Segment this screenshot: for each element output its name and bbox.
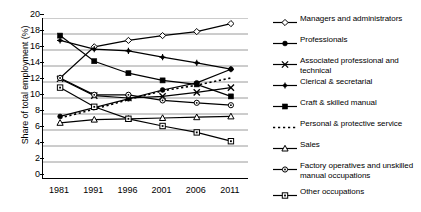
x-tick-label: 2001 xyxy=(152,186,172,195)
marker-filled-star xyxy=(228,66,234,72)
y-tick-label: 18 xyxy=(30,26,40,35)
legend-marker-none-icon xyxy=(272,119,298,130)
legend-label: Clerical & secretarial xyxy=(298,77,372,87)
marker-open-square xyxy=(160,123,165,128)
x-axis-tick-labels: 198119911996200120062011 xyxy=(42,182,247,196)
legend: Managers and administratorsProfessionals… xyxy=(272,6,421,206)
legend-marker-x-cross-icon xyxy=(272,56,298,67)
x-tick-label: 2006 xyxy=(186,186,206,195)
x-tick-label: 1981 xyxy=(49,186,69,195)
marker-open-circle xyxy=(126,92,131,97)
legend-marker-open-triangle-icon xyxy=(272,140,298,151)
marker-open-circle xyxy=(194,100,199,105)
marker-open-diamond xyxy=(159,33,165,39)
legend-label: Craft & skilled manual xyxy=(298,98,377,108)
legend-item[interactable]: Sales xyxy=(272,140,320,151)
y-tick-label: 20 xyxy=(30,10,40,19)
legend-label: Associated professional and technical xyxy=(298,56,399,75)
marker-filled-circle xyxy=(160,88,165,93)
marker-open-circle xyxy=(57,75,62,80)
plot-svg xyxy=(43,18,248,178)
legend-item[interactable]: Other occupations xyxy=(272,187,364,198)
marker-open-square xyxy=(92,104,97,109)
marker-open-square xyxy=(126,116,131,121)
marker-filled-circle xyxy=(58,114,63,119)
marker-filled-square xyxy=(228,94,233,99)
plot-area xyxy=(42,18,248,179)
legend-item[interactable]: Craft & skilled manual xyxy=(272,98,377,109)
marker-filled-square xyxy=(283,104,288,109)
y-tick-label: 16 xyxy=(30,42,40,51)
marker-open-diamond xyxy=(282,19,288,25)
line-chart: Share of total employment (%) 2018161412… xyxy=(0,0,421,212)
marker-open-square xyxy=(282,193,287,198)
legend-marker-filled-square-icon xyxy=(272,98,298,109)
legend-marker-filled-star-icon xyxy=(272,77,298,88)
marker-filled-square xyxy=(92,59,97,64)
legend-item[interactable]: Professionals xyxy=(272,35,347,46)
legend-marker-open-square-icon xyxy=(272,187,298,198)
series-line xyxy=(60,24,231,78)
marker-open-square xyxy=(194,130,199,135)
legend-item[interactable]: Factory operatives and unskilled manual … xyxy=(272,161,413,180)
marker-filled-circle xyxy=(283,41,288,46)
marker-filled-star xyxy=(159,54,165,60)
x-tick-label: 1991 xyxy=(83,186,103,195)
marker-filled-star xyxy=(125,48,131,54)
legend-label: Professionals xyxy=(298,35,347,45)
legend-item[interactable]: Managers and administrators xyxy=(272,14,402,25)
marker-filled-square xyxy=(58,33,63,38)
y-axis-tick-labels: 20181614121086420 xyxy=(14,14,40,178)
y-tick-label: 14 xyxy=(30,58,40,67)
legend-marker-open-diamond-icon xyxy=(272,14,298,25)
marker-open-square xyxy=(57,85,62,90)
marker-open-circle xyxy=(92,92,97,97)
legend-item[interactable]: Clerical & secretarial xyxy=(272,77,372,88)
legend-label: Factory operatives and unskilled manual … xyxy=(298,161,413,180)
legend-label: Managers and administrators xyxy=(298,14,402,24)
legend-item[interactable]: Associated professional and technical xyxy=(272,56,399,75)
marker-open-circle xyxy=(160,98,165,103)
legend-marker-open-circle-icon xyxy=(272,161,298,172)
x-tick-label: 2011 xyxy=(220,186,239,195)
marker-open-circle xyxy=(282,167,287,172)
legend-item[interactable]: Personal & protective service xyxy=(272,119,402,130)
legend-label: Sales xyxy=(298,140,320,150)
marker-open-circle xyxy=(228,103,233,108)
marker-filled-star xyxy=(282,82,288,88)
marker-filled-star xyxy=(194,60,200,66)
marker-open-diamond xyxy=(125,37,131,43)
x-tick-label: 1996 xyxy=(117,186,137,195)
legend-label: Other occupations xyxy=(298,187,364,197)
y-tick-label: 12 xyxy=(30,74,40,83)
marker-open-square xyxy=(228,139,233,144)
marker-open-diamond xyxy=(228,21,234,27)
marker-filled-square xyxy=(194,82,199,87)
marker-filled-square xyxy=(126,71,131,76)
y-axis-tick xyxy=(40,14,44,15)
legend-label: Personal & protective service xyxy=(298,119,402,129)
y-tick-label: 10 xyxy=(30,90,40,99)
legend-marker-filled-circle-icon xyxy=(272,35,298,46)
marker-filled-square xyxy=(160,78,165,83)
